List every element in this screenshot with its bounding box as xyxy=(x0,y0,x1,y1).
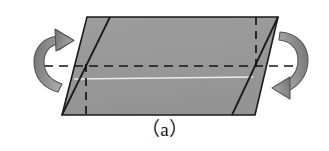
figure-caption: （a） xyxy=(0,118,329,142)
left-rotation-arrow-head-triangle xyxy=(55,29,74,51)
figure-a-container: （a） xyxy=(0,0,329,151)
left-rotation-arrow xyxy=(34,29,74,92)
right-rotation-arrow-head-triangle xyxy=(272,77,290,99)
